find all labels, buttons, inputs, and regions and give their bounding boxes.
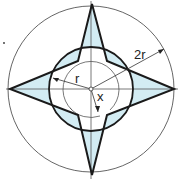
radius-r-line (53, 78, 91, 89)
radius-r-arrowhead (53, 78, 59, 82)
radius-2r-arrowhead (158, 49, 164, 54)
label-x: x (97, 89, 104, 104)
diagram-canvas: r 2r x (0, 0, 182, 180)
stray-dot (3, 42, 5, 44)
label-r: r (75, 71, 80, 86)
label-2r: 2r (134, 47, 146, 62)
star-circle-diagram: r 2r x (0, 0, 182, 180)
center-point (89, 87, 93, 91)
